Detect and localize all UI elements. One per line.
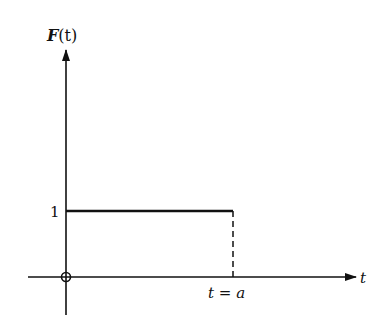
level-label: 1 bbox=[50, 203, 60, 221]
x-axis-label: t bbox=[360, 269, 367, 287]
pulse-diagram: F(t) 1 t t = a bbox=[0, 0, 387, 321]
step-end-label: t = a bbox=[208, 284, 245, 302]
y-axis-label: F(t) bbox=[46, 26, 77, 45]
